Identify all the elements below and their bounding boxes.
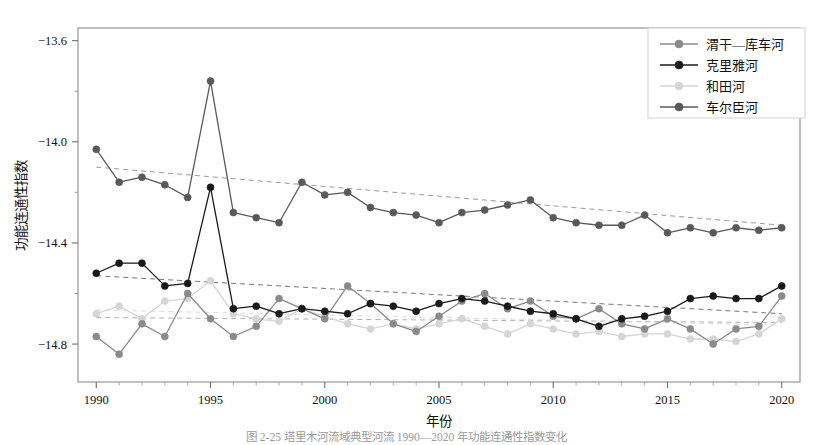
series-marker (116, 179, 123, 186)
legend-marker (675, 82, 683, 90)
series-marker (161, 282, 168, 289)
series-marker (710, 229, 717, 236)
series-marker (367, 325, 374, 332)
series-marker (778, 282, 785, 289)
series-marker (298, 179, 305, 186)
trend-line (96, 167, 781, 225)
legend-label: 克里雅河 (706, 58, 758, 73)
series-marker (276, 219, 283, 226)
x-tick-label: 2020 (769, 393, 794, 407)
series-marker (390, 320, 397, 327)
series-marker (733, 224, 740, 231)
series-marker (116, 260, 123, 267)
series-line (96, 281, 781, 342)
series-marker (93, 146, 100, 153)
series-marker (436, 300, 443, 307)
series-marker (207, 315, 214, 322)
series-marker (687, 325, 694, 332)
y-tick-label: −13.6 (38, 34, 67, 48)
series-marker (253, 303, 260, 310)
y-tick-label: −14.4 (38, 236, 68, 250)
legend-label: 和田河 (706, 79, 745, 94)
series-marker (458, 295, 465, 302)
series-marker (595, 323, 602, 330)
y-axis-title: 功能连通性指数 (14, 159, 29, 251)
series-marker (116, 351, 123, 358)
series-marker (710, 341, 717, 348)
series-marker (207, 184, 214, 191)
series-marker (733, 325, 740, 332)
series-marker (778, 224, 785, 231)
series-marker (207, 78, 214, 85)
series-marker (504, 330, 511, 337)
series-marker (93, 270, 100, 277)
legend-label: 渭干—库车河 (706, 37, 784, 52)
series-marker (710, 293, 717, 300)
x-tick-label: 2000 (312, 393, 337, 407)
series-marker (618, 222, 625, 229)
series-marker (778, 293, 785, 300)
series-marker (481, 298, 488, 305)
series-marker (413, 328, 420, 335)
series-marker (184, 290, 191, 297)
series-marker (436, 320, 443, 327)
series-marker (321, 315, 328, 322)
x-tick-label: 1990 (84, 393, 109, 407)
series-marker (687, 336, 694, 343)
series-marker (138, 260, 145, 267)
series-marker (664, 229, 671, 236)
series-marker (93, 310, 100, 317)
series-marker (161, 298, 168, 305)
series-marker (138, 320, 145, 327)
series-marker (230, 305, 237, 312)
series-marker (641, 212, 648, 219)
series-marker (481, 323, 488, 330)
series-marker (93, 333, 100, 340)
series-marker (755, 330, 762, 337)
series-marker (458, 209, 465, 216)
legend-marker (675, 61, 683, 69)
series-marker (230, 209, 237, 216)
series-marker (481, 207, 488, 214)
y-tick-label: −14.8 (38, 338, 67, 352)
legend-label: 车尔臣河 (706, 100, 758, 115)
series-marker (550, 325, 557, 332)
series-marker (664, 315, 671, 322)
series-marker (618, 315, 625, 322)
series-marker (527, 196, 534, 203)
series-marker (573, 315, 580, 322)
series-marker (321, 308, 328, 315)
series-marker (390, 303, 397, 310)
legend-marker (675, 103, 683, 111)
series-marker (138, 174, 145, 181)
series-marker (161, 181, 168, 188)
figure-container: −13.6−14.0−14.4−14.819901995200020052010… (0, 0, 813, 445)
series-marker (664, 330, 671, 337)
series-marker (344, 189, 351, 196)
series-marker (413, 308, 420, 315)
x-axis-title: 年份 (426, 414, 453, 429)
series-marker (550, 310, 557, 317)
x-tick-label: 1995 (198, 393, 223, 407)
series-marker (367, 204, 374, 211)
series-marker (436, 313, 443, 320)
series-marker (436, 219, 443, 226)
series-marker (207, 277, 214, 284)
series-marker (253, 214, 260, 221)
series-marker (641, 313, 648, 320)
trend-line (96, 276, 781, 314)
series-marker (504, 202, 511, 209)
series-marker (298, 305, 305, 312)
legend-marker (675, 40, 683, 48)
series-marker (504, 303, 511, 310)
series-marker (755, 295, 762, 302)
series-marker (778, 315, 785, 322)
series-marker (344, 310, 351, 317)
series-marker (733, 295, 740, 302)
series-marker (573, 219, 580, 226)
series-marker (755, 323, 762, 330)
series-marker (458, 315, 465, 322)
series-marker (367, 300, 374, 307)
series-marker (618, 333, 625, 340)
series-marker (527, 320, 534, 327)
